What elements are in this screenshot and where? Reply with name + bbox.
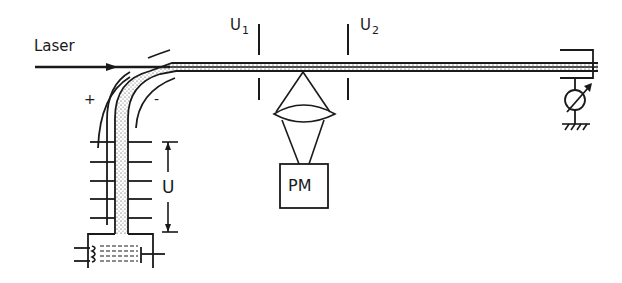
u2-main: U bbox=[360, 16, 371, 34]
u1-main: U bbox=[230, 16, 241, 34]
photomultiplier-label: PM bbox=[288, 178, 311, 194]
ion-source bbox=[74, 234, 165, 268]
laser-label: Laser bbox=[34, 39, 75, 54]
ion-beam-tube bbox=[115, 63, 598, 234]
u1-subscript: 1 bbox=[242, 24, 249, 37]
u2-subscript: 2 bbox=[372, 24, 379, 37]
voltage-label: U bbox=[162, 179, 174, 196]
current-meter bbox=[565, 78, 592, 124]
ammeter-icon bbox=[565, 90, 585, 110]
plus-label: + bbox=[84, 92, 96, 106]
u1-label: U1 bbox=[230, 18, 249, 33]
ground-icon bbox=[562, 124, 590, 130]
lens-icon bbox=[274, 105, 335, 122]
laser-beam bbox=[35, 63, 170, 71]
apparatus-diagram bbox=[0, 0, 622, 283]
collection-optics bbox=[274, 72, 335, 164]
u2-label: U2 bbox=[360, 18, 379, 33]
minus-label: - bbox=[154, 92, 159, 106]
arrow-icon bbox=[106, 63, 118, 71]
